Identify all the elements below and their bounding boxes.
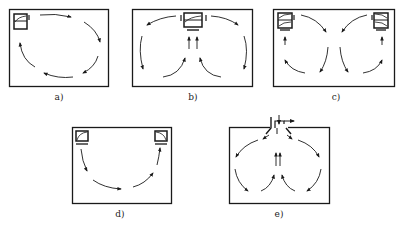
panel-b-caption: b) [178,92,208,102]
airflow-arrows [285,15,382,73]
airflow-arrows [140,16,246,77]
panel-e: e) [190,115,330,229]
airflow-arrows [81,148,160,189]
panel-d-caption: d) [105,209,135,219]
panel-b: b) [130,0,270,115]
ac-unit-icon-left [76,131,88,144]
panel-e-caption: e) [264,209,294,219]
panel-c-caption: c) [321,92,351,102]
ac-unit-icon [181,13,206,30]
ac-unit-icon-right [372,13,388,30]
airflow-arrows [235,135,321,191]
panel-a-caption: a) [44,92,74,102]
ac-unit-icon-right [155,131,167,144]
panel-e-drawing [190,115,330,229]
ceiling-duct-icon [266,115,294,134]
room-outline [133,10,253,87]
ac-unit-icon [14,14,29,29]
ac-unit-icon-left [278,13,294,30]
panel-c: c) [265,0,403,115]
airflow-arrows [20,14,100,77]
room-outline [230,128,330,204]
panel-d: d) [60,115,200,229]
panel-a: a) [0,0,135,115]
